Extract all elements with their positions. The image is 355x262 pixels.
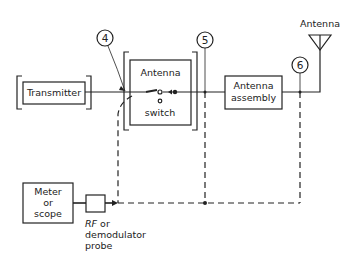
test-point-4-label: 4: [97, 30, 113, 46]
antenna-switch-label-bottom: switch: [135, 107, 185, 118]
antenna-symbol: [309, 35, 331, 50]
block-diagram: [0, 0, 355, 262]
probe-label-3: probe: [85, 240, 112, 251]
main-signal-line: [85, 49, 320, 92]
probe-box: [86, 195, 105, 212]
antenna-assembly-label-2: assembly: [225, 92, 282, 103]
test-point-6-label: 6: [292, 57, 308, 73]
meter-label-2: or: [23, 197, 73, 208]
probe-label-1: RF or: [85, 218, 110, 229]
meter-label-1: Meter: [23, 186, 73, 197]
probe-label-2: demodulator: [85, 229, 146, 240]
transmitter-label: Transmitter: [23, 87, 85, 98]
antenna-label: Antenna: [295, 18, 345, 29]
probe-label-rf: RF: [85, 218, 97, 229]
probe-label-or: or: [97, 218, 110, 229]
antenna-switch-label-top: Antenna: [130, 67, 191, 78]
test-point-5-label: 5: [197, 32, 213, 48]
antenna-assembly-label-1: Antenna: [225, 80, 282, 91]
junction-markers: [112, 86, 302, 206]
meter-label-3: scope: [23, 208, 73, 219]
